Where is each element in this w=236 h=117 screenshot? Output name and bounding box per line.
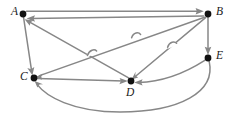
crossing-hop-2	[132, 33, 141, 38]
edge-e-to-d	[134, 60, 205, 85]
node-dot-e[interactable]	[205, 55, 212, 62]
crossing-hop-1	[87, 50, 96, 56]
arrowhead-at-b	[196, 8, 204, 14]
node-dot-b[interactable]	[205, 11, 212, 18]
edge-d-to-a	[25, 19, 129, 78]
edge-b-to-c	[35, 17, 204, 79]
graph-figure: A B C D E	[0, 0, 236, 117]
node-layer	[20, 11, 212, 85]
edge-layer	[24, 8, 212, 112]
node-label-e: E	[216, 50, 223, 62]
node-dot-a[interactable]	[20, 11, 27, 18]
edge-b-to-e	[205, 18, 212, 55]
edge-a-to-b	[27, 8, 204, 14]
edge-c-to-d	[38, 78, 128, 84]
node-label-b: B	[216, 6, 223, 18]
node-dot-c[interactable]	[31, 75, 38, 82]
crossing-layer	[87, 33, 176, 56]
edge-e-to-c	[35, 61, 210, 112]
edge-b-to-a	[27, 15, 204, 22]
node-label-c: C	[20, 71, 28, 83]
graph-canvas	[0, 0, 236, 117]
node-dot-d[interactable]	[128, 78, 135, 85]
edge-b-to-d	[132, 18, 206, 80]
node-label-a: A	[11, 6, 18, 18]
crossing-hop-3	[168, 42, 177, 47]
node-label-d: D	[126, 87, 134, 99]
edge-a-to-c	[24, 18, 35, 76]
